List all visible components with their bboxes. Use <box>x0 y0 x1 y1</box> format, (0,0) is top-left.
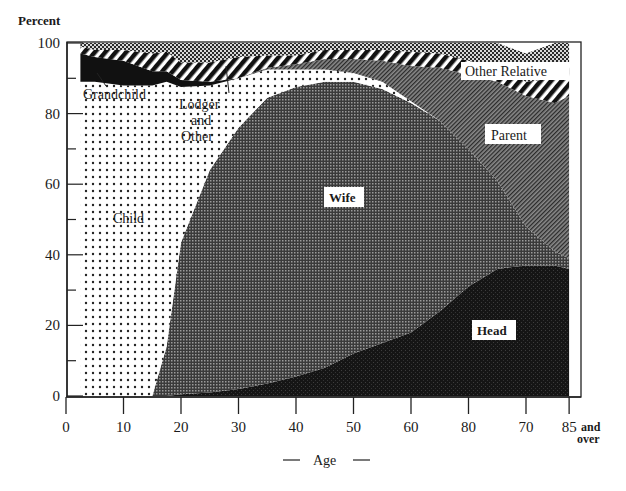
y-axis-title: Percent <box>18 13 61 28</box>
x-tick-label: 20 <box>174 419 189 435</box>
x-axis-title: Age <box>283 453 370 468</box>
label-lodger-1: Lodger <box>179 97 220 112</box>
x-tick-label: 0 <box>62 419 70 435</box>
y-tick-label: 0 <box>53 388 61 404</box>
y-tick-label: 80 <box>45 106 60 122</box>
y-tick-label: 100 <box>38 35 61 51</box>
x-axis: 0102030405060807085 <box>62 397 581 435</box>
x-tick-over: over <box>577 432 600 446</box>
label-child: Child <box>113 211 144 226</box>
x-tick-label: 30 <box>231 419 246 435</box>
label-lodger-2: and <box>191 113 211 128</box>
label-parent: Parent <box>491 128 527 143</box>
x-tick-label: 70 <box>519 419 534 435</box>
x-tick-label: 40 <box>289 419 304 435</box>
y-tick-label: 40 <box>45 247 60 263</box>
label-wife: Wife <box>329 190 356 205</box>
x-tick-label: 60 <box>404 419 419 435</box>
label-other-relative: Other Relative <box>465 64 547 79</box>
x-tick-label: 50 <box>346 419 361 435</box>
stacked-area-chart: 020406080100 0102030405060807085 Percent… <box>0 0 626 491</box>
x-tick-label: 10 <box>116 419 131 435</box>
x-tick-label: 80 <box>461 419 476 435</box>
y-tick-label: 60 <box>45 176 60 192</box>
x-tick-label: 85 <box>562 419 577 435</box>
svg-text:Age: Age <box>313 453 336 468</box>
area-layers <box>80 43 569 396</box>
label-lodger-3: Other <box>181 129 213 144</box>
label-head: Head <box>477 323 507 338</box>
label-grandchild: Grandchild <box>83 87 146 102</box>
y-tick-label: 20 <box>45 317 60 333</box>
